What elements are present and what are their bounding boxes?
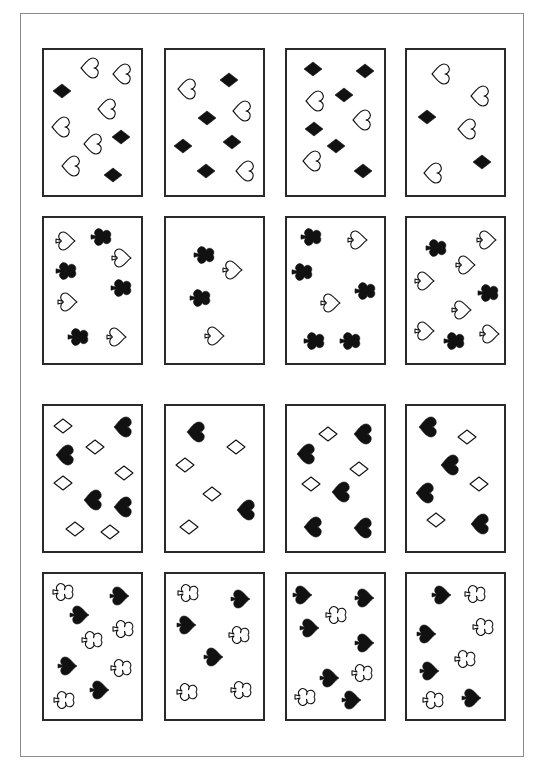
- filled-club-icon: [67, 326, 89, 348]
- outline-spade-icon: [476, 229, 498, 251]
- filled-diamond-icon: [196, 107, 218, 129]
- filled-spade-icon: [299, 617, 321, 639]
- outline-heart-icon: [95, 98, 117, 120]
- card-7[interactable]: [285, 216, 386, 365]
- card-5[interactable]: [42, 216, 143, 365]
- filled-diamond-icon: [51, 80, 73, 102]
- outline-club-icon: [422, 689, 444, 711]
- outline-spade-icon: [106, 326, 128, 348]
- filled-heart-icon: [416, 416, 438, 438]
- card-16[interactable]: [405, 572, 506, 721]
- outline-heart-icon: [455, 118, 477, 140]
- outline-club-icon: [52, 581, 74, 603]
- filled-heart-icon: [111, 416, 133, 438]
- filled-club-icon: [110, 277, 132, 299]
- card-9[interactable]: [42, 404, 143, 553]
- filled-diamond-icon: [471, 151, 493, 173]
- card-2[interactable]: [164, 48, 265, 197]
- filled-club-icon: [291, 261, 313, 283]
- filled-diamond-icon: [218, 69, 240, 91]
- outline-club-icon: [325, 604, 347, 626]
- outline-club-icon: [454, 648, 476, 670]
- filled-heart-icon: [468, 513, 490, 535]
- outline-club-icon: [351, 662, 373, 684]
- outline-spade-icon: [204, 325, 226, 347]
- outline-heart-icon: [81, 133, 103, 155]
- card-14[interactable]: [164, 572, 265, 721]
- filled-spade-icon: [431, 584, 453, 606]
- outline-spade-icon: [479, 323, 501, 345]
- filled-diamond-icon: [302, 58, 324, 80]
- outline-diamond-icon: [225, 436, 247, 458]
- filled-spade-icon: [203, 646, 225, 668]
- filled-heart-icon: [184, 421, 206, 443]
- outline-diamond-icon: [174, 454, 196, 476]
- filled-spade-icon: [292, 584, 314, 606]
- filled-spade-icon: [176, 614, 198, 636]
- filled-diamond-icon: [195, 160, 217, 182]
- filled-diamond-icon: [325, 135, 347, 157]
- filled-spade-icon: [354, 632, 376, 654]
- filled-club-icon: [339, 330, 361, 352]
- filled-diamond-icon: [352, 160, 374, 182]
- filled-heart-icon: [301, 516, 323, 538]
- filled-club-icon: [303, 330, 325, 352]
- filled-heart-icon: [234, 499, 256, 521]
- filled-club-icon: [425, 237, 447, 259]
- outline-diamond-icon: [300, 473, 322, 495]
- outline-spade-icon: [455, 254, 477, 276]
- outline-heart-icon: [468, 85, 490, 107]
- filled-spade-icon: [341, 689, 363, 711]
- filled-spade-icon: [419, 660, 441, 682]
- outline-heart-icon: [59, 155, 81, 177]
- outline-heart-icon: [230, 100, 252, 122]
- card-13[interactable]: [42, 572, 143, 721]
- filled-club-icon: [193, 244, 215, 266]
- card-10[interactable]: [164, 404, 265, 553]
- card-11[interactable]: [285, 404, 386, 553]
- outline-spade-icon: [451, 299, 473, 321]
- filled-heart-icon: [53, 444, 75, 466]
- outline-heart-icon: [300, 150, 322, 172]
- outline-heart-icon: [350, 109, 372, 131]
- card-6[interactable]: [164, 216, 265, 365]
- outline-heart-icon: [78, 57, 100, 79]
- filled-spade-icon: [354, 587, 376, 609]
- card-3[interactable]: [285, 48, 386, 197]
- filled-club-icon: [189, 287, 211, 309]
- outline-diamond-icon: [348, 458, 370, 480]
- outline-heart-icon: [110, 63, 132, 85]
- filled-club-icon: [443, 330, 465, 352]
- filled-heart-icon: [81, 489, 103, 511]
- outline-heart-icon: [303, 90, 325, 112]
- outline-diamond-icon: [52, 415, 74, 437]
- outline-diamond-icon: [99, 521, 121, 543]
- filled-spade-icon: [69, 604, 91, 626]
- card-1[interactable]: [42, 48, 143, 197]
- filled-diamond-icon: [110, 126, 132, 148]
- outline-spade-icon: [55, 230, 77, 252]
- card-15[interactable]: [285, 572, 386, 721]
- outline-club-icon: [294, 686, 316, 708]
- filled-diamond-icon: [354, 60, 376, 82]
- card-12[interactable]: [405, 404, 506, 553]
- filled-club-icon: [90, 226, 112, 248]
- filled-diamond-icon: [303, 118, 325, 140]
- filled-heart-icon: [351, 423, 373, 445]
- outline-club-icon: [230, 679, 252, 701]
- outline-diamond-icon: [113, 462, 135, 484]
- outline-club-icon: [53, 689, 75, 711]
- filled-spade-icon: [416, 623, 438, 645]
- outline-club-icon: [176, 681, 198, 703]
- filled-club-icon: [477, 282, 499, 304]
- card-8[interactable]: [405, 216, 506, 365]
- outline-diamond-icon: [468, 473, 490, 495]
- filled-spade-icon: [89, 679, 111, 701]
- outline-diamond-icon: [317, 423, 339, 445]
- card-4[interactable]: [405, 48, 506, 197]
- filled-heart-icon: [413, 482, 435, 504]
- outline-diamond-icon: [178, 516, 200, 538]
- outline-heart-icon: [175, 78, 197, 100]
- filled-club-icon: [300, 226, 322, 248]
- outline-club-icon: [81, 629, 103, 651]
